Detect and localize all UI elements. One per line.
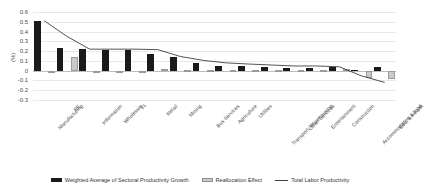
- light-square-swatch: [202, 178, 213, 183]
- x-axis-tick-label: Mining: [188, 103, 203, 118]
- weighted-average-bar: [238, 66, 245, 70]
- chart-legend: Weighted Average of Sectoral Productivit…: [0, 172, 400, 188]
- weighted-average-bar: [125, 50, 132, 71]
- line-swatch: [275, 180, 288, 181]
- gridline: [33, 41, 396, 42]
- reallocation-effect-bar: [366, 71, 373, 78]
- y-axis-tick-label: 0.1: [6, 58, 28, 64]
- reallocation-effect-bar: [343, 69, 350, 71]
- legend-item-total-labor-productivity: Total Labor Productivity: [275, 177, 349, 183]
- zero-axis-line: [33, 71, 396, 72]
- y-axis-tick-label: -0.1: [6, 77, 28, 83]
- y-axis-tick-label: -0.3: [6, 97, 28, 103]
- y-axis-tick-label: -0.2: [6, 87, 28, 93]
- y-axis-tick-label: 0.3: [6, 38, 28, 44]
- gridline: [33, 80, 396, 81]
- dark-square-swatch: [51, 178, 62, 183]
- gridline: [33, 32, 396, 33]
- x-axis-tick-label: Bus Services: [215, 103, 241, 129]
- reallocation-effect-bar: [48, 71, 55, 73]
- y-axis-tick-label: 0.4: [6, 29, 28, 35]
- weighted-average-bar: [329, 67, 336, 71]
- weighted-average-bar: [351, 70, 358, 71]
- weighted-average-bar: [193, 63, 200, 71]
- gridline: [33, 100, 396, 101]
- reallocation-effect-bar: [139, 71, 146, 73]
- reallocation-effect-bar: [184, 70, 191, 72]
- x-axis-tick-label: Information: [100, 103, 123, 126]
- gridline: [33, 22, 396, 23]
- weighted-average-bar: [102, 50, 109, 71]
- legend-label-reallocation-effect: Reallocation Effect: [216, 177, 263, 183]
- legend-label-weighted-average: Weighted Average of Sectoral Productivit…: [65, 177, 189, 183]
- weighted-average-bar: [79, 49, 86, 71]
- x-axis-tick-label: Edu. & Health: [397, 103, 424, 130]
- weighted-average-bar: [283, 68, 290, 71]
- reallocation-effect-bar: [116, 71, 123, 73]
- reallocation-effect-bar: [388, 71, 395, 79]
- legend-item-reallocation-effect: Reallocation Effect: [202, 177, 263, 183]
- reallocation-effect-bar: [71, 57, 78, 71]
- weighted-average-bar: [306, 68, 313, 71]
- weighted-average-bar: [57, 48, 64, 70]
- reallocation-effect-bar: [320, 70, 327, 72]
- reallocation-effect-bar: [161, 69, 168, 71]
- reallocation-effect-bar: [298, 70, 305, 72]
- weighted-average-bar: [261, 67, 268, 70]
- reallocation-effect-bar: [230, 70, 237, 72]
- gridline: [33, 12, 396, 13]
- x-axis-tick-label: Retail: [165, 103, 179, 117]
- y-axis-tick-label: 0.2: [6, 48, 28, 54]
- weighted-average-bar: [374, 67, 381, 71]
- reallocation-effect-bar: [275, 70, 282, 72]
- y-axis-tick-label: 0.5: [6, 19, 28, 25]
- reallocation-effect-bar: [207, 70, 214, 72]
- gridline: [33, 90, 396, 91]
- weighted-average-bar: [34, 21, 41, 71]
- x-axis-tick-label: Utilities: [256, 103, 272, 119]
- legend-item-weighted-average: Weighted Average of Sectoral Productivit…: [51, 177, 189, 183]
- gridline: [33, 51, 396, 52]
- reallocation-effect-bar: [252, 70, 259, 72]
- weighted-average-bar: [147, 54, 154, 71]
- y-axis-tick-label: 0.6: [6, 9, 28, 15]
- reallocation-effect-bar: [93, 71, 100, 73]
- weighted-average-bar: [170, 57, 177, 71]
- gridline: [33, 61, 396, 62]
- y-axis-tick-label: 0: [6, 68, 28, 74]
- legend-label-total-labor-productivity: Total Labor Productivity: [291, 177, 349, 183]
- weighted-average-bar: [215, 66, 222, 71]
